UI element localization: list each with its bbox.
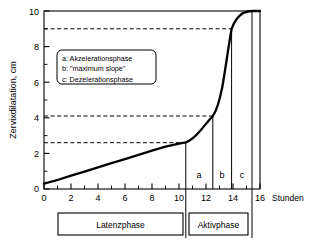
x-tick-label: 12 xyxy=(201,193,211,203)
x-tick-label: 8 xyxy=(149,193,154,203)
y-tick-label: 0 xyxy=(34,184,39,194)
phase-box-latenzphase: Latenzphase xyxy=(58,213,183,235)
plot-frame xyxy=(44,11,260,189)
cervical-dilatation-chart: 0 2 4 6 8 10 Zervixdilatation, cm xyxy=(0,0,314,242)
phase-box-aktivphase: Aktivphase xyxy=(189,213,248,235)
x-tick-label: 14 xyxy=(228,193,238,203)
y-tick-labels: 0 2 4 6 8 10 xyxy=(29,7,39,195)
x-tick-label: 2 xyxy=(68,193,73,203)
y-tick-label: 4 xyxy=(34,113,39,123)
x-tick-label: 10 xyxy=(174,193,184,203)
phase-box-label: Aktivphase xyxy=(198,220,240,230)
y-tick-label: 10 xyxy=(29,7,39,17)
legend-entry: c: Dezelerationsphase xyxy=(62,75,133,84)
annotation-b: b xyxy=(219,170,224,180)
x-tick-label: 4 xyxy=(95,193,100,203)
x-tick-label: 6 xyxy=(122,193,127,203)
phase-box-label: Latenzphase xyxy=(96,220,145,230)
x-tick-labels: 0 2 4 6 8 10 12 14 16 xyxy=(41,193,265,203)
y-tick-label: 6 xyxy=(34,78,39,88)
legend: a: Akzelerationsphase b: "maximum slope"… xyxy=(57,50,156,84)
annotation-a: a xyxy=(196,170,201,180)
annotation-c: c xyxy=(240,170,245,180)
y-tick-label: 2 xyxy=(34,149,39,159)
y-axis-title: Zervixdilatation, cm xyxy=(8,61,18,139)
friedman-curve-figure: 0 2 4 6 8 10 Zervixdilatation, cm xyxy=(0,0,314,242)
x-tick-label: 16 xyxy=(255,193,265,203)
legend-entry: a: Akzelerationsphase xyxy=(62,54,132,63)
legend-entry: b: "maximum slope" xyxy=(62,64,126,73)
x-tick-label: 0 xyxy=(41,193,46,203)
y-tick-label: 8 xyxy=(34,42,39,52)
x-axis-unit-label: Stunden xyxy=(272,193,304,203)
